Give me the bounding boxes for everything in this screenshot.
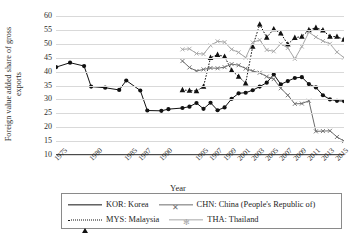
y-tick-label: 10 xyxy=(44,151,52,159)
y-tick-label: 35 xyxy=(44,82,52,90)
legend-swatch-kor xyxy=(68,200,102,209)
x-marker-icon: ✕ xyxy=(172,203,179,212)
gridline xyxy=(56,127,344,128)
legend-label-kor: KOR: Korea xyxy=(106,200,149,209)
plot-area: 6055504540353025201510 xyxy=(56,16,344,155)
gridline xyxy=(56,113,344,114)
y-tick-label: 55 xyxy=(44,26,52,34)
y-tick-label: 25 xyxy=(44,109,52,117)
filled-triangle-icon xyxy=(82,211,88,233)
x-axis-title: Year xyxy=(0,183,356,193)
legend-swatch-tha: ✻ xyxy=(169,215,203,224)
y-tick-label: 50 xyxy=(44,40,52,48)
legend-item-tha[interactable]: ✻ THA: Thailand xyxy=(169,215,258,224)
gridline xyxy=(56,58,344,59)
legend-swatch-chn: ✕ xyxy=(159,200,193,209)
legend-swatch-mys xyxy=(68,215,102,224)
y-tick-label: 30 xyxy=(44,95,52,103)
legend-label-mys: MYS: Malaysia xyxy=(106,215,159,224)
y-axis-title: Foreign value added share of gross expor… xyxy=(0,8,26,160)
gridline xyxy=(56,141,344,142)
y-axis-title-line2: exports xyxy=(13,9,23,159)
legend-item-chn[interactable]: ✕ CHN: China (People's Republic of) xyxy=(159,200,316,209)
gridline xyxy=(56,99,344,100)
y-tick-label: 60 xyxy=(44,12,52,20)
legend-row-1: KOR: Korea ✕ CHN: China (People's Republ… xyxy=(68,197,335,212)
chart-figure: Foreign value added share of gross expor… xyxy=(0,0,356,243)
legend-item-mys[interactable]: MYS: Malaysia xyxy=(68,215,159,224)
legend-label-chn: CHN: China (People's Republic of) xyxy=(197,200,316,209)
legend-label-tha: THA: Thailand xyxy=(207,215,258,224)
gridline xyxy=(56,16,344,17)
y-tick-label: 15 xyxy=(44,137,52,145)
gridline xyxy=(56,72,344,73)
legend-item-kor[interactable]: KOR: Korea xyxy=(68,200,149,209)
y-tick-label: 20 xyxy=(44,123,52,131)
legend-row-2: MYS: Malaysia ✻ THA: Thailand xyxy=(68,212,335,227)
gridline xyxy=(56,30,344,31)
gridline xyxy=(56,86,344,87)
chart-legend: KOR: Korea ✕ CHN: China (People's Republ… xyxy=(61,193,342,229)
y-axis-title-line1: Foreign value added share of gross xyxy=(4,27,13,141)
y-tick-label: 40 xyxy=(44,68,52,76)
x-marker-light-icon: ✻ xyxy=(183,218,190,227)
y-tick-label: 45 xyxy=(44,54,52,62)
series-tha xyxy=(180,30,344,61)
gridline xyxy=(56,44,344,45)
